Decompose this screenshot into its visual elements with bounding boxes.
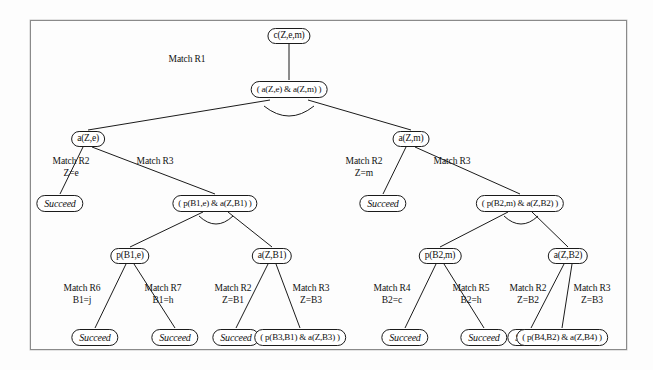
edge-binding-text: Z=m bbox=[346, 168, 383, 180]
edge-rule-text: Match R3 bbox=[137, 156, 174, 166]
node-a-z-b2[interactable]: a(Z,B2) bbox=[548, 248, 588, 264]
edge-label-pb2m-r4: Match R4 B2=c bbox=[374, 283, 411, 306]
edge-binding-text: Z=B1 bbox=[215, 295, 252, 307]
edge-label-azb1-r2: Match R2 Z=B1 bbox=[215, 283, 252, 306]
edge-rule-text: Match R5 bbox=[453, 283, 490, 293]
edge-binding-text: B1=h bbox=[145, 295, 182, 307]
edge-label-pb2m-r5: Match R5 B2=h bbox=[453, 283, 490, 306]
edge-rule-text: Match R3 bbox=[293, 283, 330, 293]
node-conjunction-right[interactable]: ( p(B2,m) & a(Z,B2) ) bbox=[476, 195, 564, 212]
node-a-z-m[interactable]: a(Z,m) bbox=[393, 131, 430, 147]
edge-rule-text: Match R2 bbox=[215, 283, 252, 293]
node-succeed-right-1[interactable]: Succeed bbox=[359, 195, 406, 212]
edge-label-root-r1: Match R1 bbox=[169, 54, 206, 66]
node-root-goal[interactable]: c(Z,e,m) bbox=[267, 28, 310, 44]
edge-label-azb2-r3: Match R3 Z=B3 bbox=[574, 283, 611, 306]
edge-binding-text: Z=B3 bbox=[293, 295, 330, 307]
node-succeed-b2[interactable]: Succeed bbox=[151, 329, 198, 346]
edge-rule-text: Match R1 bbox=[169, 54, 206, 64]
node-conjunction-left[interactable]: ( p(B1,e) & a(Z,B1) ) bbox=[172, 195, 257, 212]
edge-binding-text: Z=B2 bbox=[510, 295, 547, 307]
edge-binding-text: B2=h bbox=[453, 295, 490, 307]
node-conjunction-bottom-left[interactable]: ( p(B3,B1) & a(Z,B3) ) bbox=[254, 329, 346, 346]
node-succeed-b5[interactable]: Succeed bbox=[460, 329, 507, 346]
edge-binding-text: B1=j bbox=[64, 295, 101, 307]
node-p-b1-e[interactable]: p(B1,e) bbox=[110, 248, 149, 264]
node-succeed-left-1[interactable]: Succeed bbox=[36, 195, 83, 212]
edge-label-aze-r3: Match R3 bbox=[137, 156, 174, 168]
edge-rule-text: Match R3 bbox=[434, 156, 471, 166]
edge-binding-text: B2=c bbox=[374, 295, 411, 307]
proof-tree-figure: c(Z,e,m) ( a(Z,e) & a(Z,m) ) a(Z,e) a(Z,… bbox=[0, 0, 653, 370]
edge-label-azm-r3: Match R3 bbox=[434, 156, 471, 168]
node-succeed-b3[interactable]: Succeed bbox=[212, 329, 259, 346]
node-succeed-b1[interactable]: Succeed bbox=[71, 329, 118, 346]
node-succeed-b4[interactable]: Succeed bbox=[381, 329, 428, 346]
node-conjunction-top[interactable]: ( a(Z,e) & a(Z,m) ) bbox=[251, 81, 328, 98]
edge-label-pb1e-r7: Match R7 B1=h bbox=[145, 283, 182, 306]
node-p-b2-m[interactable]: p(B2,m) bbox=[419, 248, 462, 264]
node-a-z-e[interactable]: a(Z,e) bbox=[71, 131, 105, 147]
edge-binding-text: Z=e bbox=[53, 168, 90, 180]
edge-rule-text: Match R2 bbox=[53, 156, 90, 166]
edge-label-azm-r2: Match R2 Z=m bbox=[346, 156, 383, 179]
edge-rule-text: Match R2 bbox=[510, 283, 547, 293]
edge-rule-text: Match R7 bbox=[145, 283, 182, 293]
node-conjunction-bottom-right[interactable]: ( p(B4,B2) & a(Z,B4) ) bbox=[516, 329, 608, 346]
edge-rule-text: Match R6 bbox=[64, 283, 101, 293]
edge-label-pb1e-r6: Match R6 B1=j bbox=[64, 283, 101, 306]
edge-label-azb1-r3: Match R3 Z=B3 bbox=[293, 283, 330, 306]
edge-rule-text: Match R3 bbox=[574, 283, 611, 293]
edge-label-azb2-r2: Match R2 Z=B2 bbox=[510, 283, 547, 306]
node-a-z-b1[interactable]: a(Z,B1) bbox=[252, 248, 292, 264]
edge-label-aze-r2: Match R2 Z=e bbox=[53, 156, 90, 179]
edge-rule-text: Match R2 bbox=[346, 156, 383, 166]
edge-rule-text: Match R4 bbox=[374, 283, 411, 293]
edge-binding-text: Z=B3 bbox=[574, 295, 611, 307]
